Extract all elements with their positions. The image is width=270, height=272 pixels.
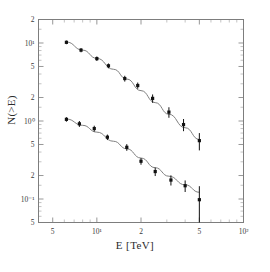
data-point-marker bbox=[79, 49, 82, 52]
data-marker-group bbox=[65, 41, 201, 202]
data-point-marker bbox=[136, 84, 139, 87]
data-point-marker bbox=[78, 122, 81, 125]
y-tick-label: 10⁰ bbox=[24, 117, 35, 126]
x-tick-label: 5 bbox=[197, 227, 201, 236]
y-tick-label: 5 bbox=[31, 62, 35, 71]
data-point-marker bbox=[125, 146, 128, 149]
x-tick-label: 2 bbox=[139, 227, 143, 236]
y-axis-label: N(>E) bbox=[5, 75, 17, 145]
x-tick-label: 10¹ bbox=[92, 227, 102, 236]
data-point-marker bbox=[65, 118, 68, 121]
plot-frame bbox=[39, 20, 244, 223]
y-tick-label: 10¹ bbox=[25, 39, 35, 48]
x-axis-label: E [TeV] bbox=[0, 239, 270, 251]
data-point-marker bbox=[65, 41, 68, 44]
data-point-marker bbox=[107, 64, 110, 67]
x-tick-label: 5 bbox=[51, 227, 55, 236]
spectrum-plot: 510¹2510²210¹5210⁰5210⁻¹5 bbox=[0, 0, 270, 272]
fit-curve bbox=[66, 42, 199, 139]
y-tick-label: 5 bbox=[31, 218, 35, 227]
y-tick-label: 2 bbox=[31, 93, 35, 102]
y-tick-label: 2 bbox=[31, 15, 35, 24]
x-tick-label: 10² bbox=[239, 227, 250, 236]
data-point-marker bbox=[151, 97, 154, 100]
data-point-marker bbox=[123, 77, 126, 80]
data-point-marker bbox=[198, 198, 201, 201]
fit-curve-group bbox=[66, 42, 199, 192]
minor-tick-group bbox=[39, 20, 244, 223]
figure-panel: 510¹2510²210¹5210⁰5210⁻¹5 E [TeV] N(>E) bbox=[0, 0, 270, 272]
y-tick-label: 2 bbox=[31, 171, 35, 180]
y-tick-label: 5 bbox=[31, 140, 35, 149]
data-point-marker bbox=[182, 123, 185, 126]
error-bar-group bbox=[66, 41, 199, 223]
data-point-marker bbox=[93, 127, 96, 130]
y-tick-label: 10⁻¹ bbox=[21, 195, 35, 204]
tick-label-group: 510¹2510²210¹5210⁰5210⁻¹5 bbox=[21, 15, 249, 235]
major-tick-group bbox=[39, 20, 244, 223]
data-point-marker bbox=[167, 111, 170, 114]
data-point-marker bbox=[169, 178, 172, 181]
data-point-marker bbox=[198, 139, 201, 142]
data-point-marker bbox=[154, 170, 157, 173]
data-point-marker bbox=[184, 184, 187, 187]
data-point-marker bbox=[106, 136, 109, 139]
data-point-marker bbox=[139, 160, 142, 163]
fit-curve bbox=[66, 119, 199, 192]
data-point-marker bbox=[95, 57, 98, 60]
